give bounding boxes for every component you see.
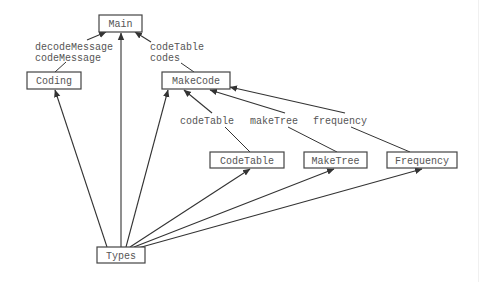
edge-types-coding [55,90,107,247]
edge-label-make-tree: makeTree [250,116,298,127]
leader-maketree-makecode [288,127,337,152]
edges [55,32,422,248]
leader-codetable-makecode [225,127,250,152]
node-label-maketree: MakeTree [311,156,359,167]
edge-types-maketree [134,169,334,247]
edge-frequency-makecode [230,87,345,113]
leader-makecode-main [181,63,194,72]
node-label-codetable: CodeTable [220,156,274,167]
edge-types-frequency [138,169,422,248]
edge-label-code-message: codeMessage [35,53,101,64]
node-makecode: MakeCode [162,72,230,89]
page-edge-divider [478,0,479,282]
edge-coding-main [87,32,106,40]
node-label-coding: Coding [36,76,72,87]
edge-codetable-makecode [184,90,212,113]
node-label-makecode: MakeCode [172,76,220,87]
edge-label-code-table: codeTable [180,116,234,127]
edge-types-codetable [130,169,250,247]
node-types: Types [97,247,145,263]
edge-label-code-table-main: codeTable [150,42,204,53]
node-coding: Coding [27,72,81,89]
edge-types-makecode [126,90,168,247]
node-label-frequency: Frequency [395,156,449,167]
node-frequency: Frequency [387,152,457,168]
node-label-types: Types [106,251,136,262]
edge-maketree-makecode [210,90,285,113]
edge-label-codes: codes [150,53,180,64]
leader-frequency-makecode [351,127,410,152]
node-main: Main [99,15,142,32]
edge-makecode-main [135,32,151,42]
node-codetable: CodeTable [210,152,284,168]
edge-label-frequency: frequency [313,116,367,127]
node-label-main: Main [108,19,132,30]
dependency-diagram: decodeMessage codeMessage codeTable code… [0,0,481,282]
node-maketree: MakeTree [304,152,367,168]
edge-label-decode-message: decodeMessage [35,42,113,53]
